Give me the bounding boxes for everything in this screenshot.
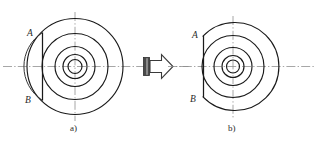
view-b-label-B: B: [190, 94, 196, 104]
view-b-group: A B: [168, 16, 315, 118]
view-a-label-B: B: [25, 95, 31, 105]
view-b-label-A: A: [191, 30, 198, 40]
view-a-group: A B: [3, 12, 150, 121]
drawing-canvas: A B A: [0, 0, 318, 143]
caption-b: b): [228, 123, 236, 133]
technical-drawing-figure: A B A: [0, 0, 318, 143]
view-a-label-A: A: [26, 28, 33, 38]
arrow-tail-block: [144, 58, 150, 76]
caption-a: a): [70, 123, 77, 133]
